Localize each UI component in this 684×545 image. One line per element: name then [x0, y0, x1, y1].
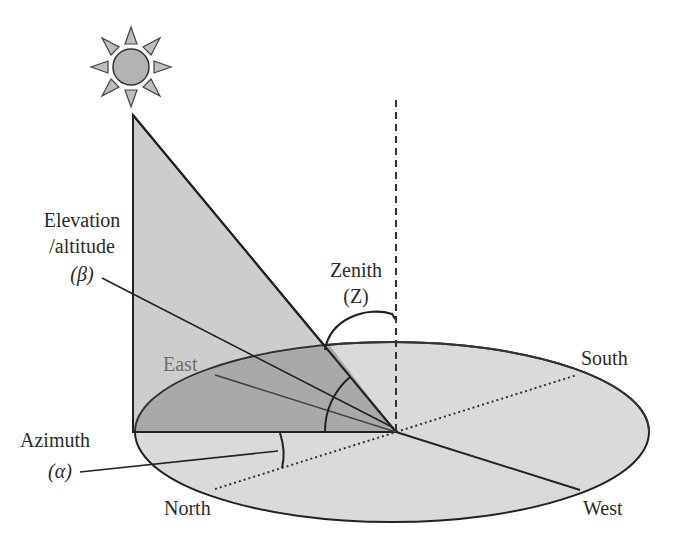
north-label: North [164, 496, 211, 520]
sun-angle-diagram: Elevation /altitude (β) Zenith (Z) East … [0, 0, 684, 545]
azimuth-symbol: (α) [48, 459, 72, 483]
elevation-label-line2: /altitude [26, 234, 138, 258]
east-label: East [163, 352, 197, 376]
west-label: West [583, 496, 623, 520]
zenith-label: Zenith [316, 258, 396, 282]
azimuth-label: Azimuth [20, 428, 90, 452]
elevation-label-line1: Elevation [26, 208, 138, 232]
zenith-symbol: (Z) [316, 284, 396, 308]
elevation-symbol: (β) [26, 262, 138, 286]
sun-icon [91, 27, 171, 107]
south-label: South [581, 346, 628, 370]
